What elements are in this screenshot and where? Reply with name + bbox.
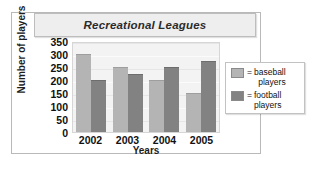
plot-area bbox=[72, 42, 220, 133]
legend-label-line2: players bbox=[254, 100, 281, 110]
y-tick-label: 250 bbox=[50, 63, 68, 74]
bar-group bbox=[110, 43, 147, 132]
chart-legend: =baseballplayers=footballplayers bbox=[225, 62, 305, 114]
legend-equals-sign: = bbox=[247, 90, 252, 100]
y-axis-label: Number of players bbox=[16, 3, 27, 97]
x-axis-label: Years bbox=[72, 145, 220, 156]
y-tick-label: 100 bbox=[50, 102, 68, 113]
bar-football bbox=[164, 67, 179, 132]
bar-football bbox=[201, 61, 216, 133]
chart-title: Recreational Leagues bbox=[84, 19, 207, 31]
bar-football bbox=[91, 80, 106, 132]
legend-item: =baseballplayers bbox=[231, 67, 300, 87]
bar-baseball bbox=[76, 54, 91, 132]
bar-groups bbox=[73, 43, 219, 132]
legend-label-line1: baseball bbox=[254, 67, 286, 77]
chart-title-box: Recreational Leagues bbox=[34, 13, 256, 37]
bar-baseball bbox=[186, 93, 201, 132]
y-tick-label: 0 bbox=[62, 128, 68, 139]
bar-baseball bbox=[113, 67, 128, 132]
bar-baseball bbox=[149, 80, 164, 132]
bar-football bbox=[128, 74, 143, 133]
y-tick-label: 150 bbox=[50, 89, 68, 100]
legend-item: =footballplayers bbox=[231, 90, 300, 110]
legend-label-line2: players bbox=[254, 77, 286, 87]
legend-label: footballplayers bbox=[254, 90, 281, 110]
y-tick-label: 350 bbox=[50, 37, 68, 48]
y-tick-label: 300 bbox=[50, 50, 68, 61]
chart-figure: Recreational Leagues Number of players 3… bbox=[0, 0, 314, 171]
bar-group bbox=[73, 43, 110, 132]
legend-label-line1: football bbox=[254, 90, 281, 100]
legend-equals-sign: = bbox=[247, 67, 252, 77]
y-axis-ticks: 350300250200150100500 bbox=[42, 42, 68, 133]
bar-group bbox=[146, 43, 183, 132]
legend-swatch-baseball bbox=[231, 68, 244, 78]
legend-swatch-football bbox=[231, 91, 244, 101]
y-tick-label: 50 bbox=[56, 115, 68, 126]
bar-group bbox=[183, 43, 220, 132]
y-tick-label: 200 bbox=[50, 76, 68, 87]
legend-label: baseballplayers bbox=[254, 67, 286, 87]
